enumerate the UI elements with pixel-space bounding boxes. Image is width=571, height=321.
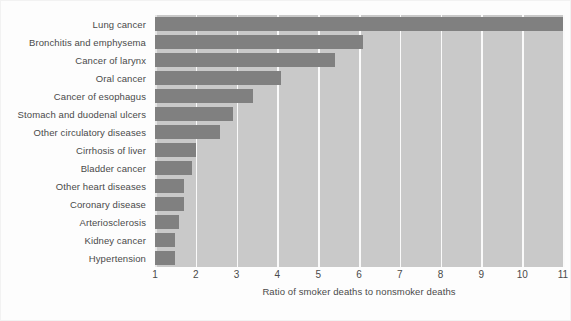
bar-row [155,249,563,267]
category-label: Stomach and duodenal ulcers [0,105,152,123]
x-axis-ticks: 1234567891011 [155,267,563,287]
bar-row [155,213,563,231]
bar [155,143,196,157]
bar-row [155,159,563,177]
x-tick-label: 7 [397,269,403,280]
bar [155,71,281,85]
bar [155,215,179,229]
bar [155,251,175,265]
category-label: Arteriosclerosis [0,213,152,231]
x-tick-label: 10 [517,269,528,280]
bar [155,53,335,67]
bar-row [155,123,563,141]
bar [155,161,192,175]
bar-row [155,69,563,87]
category-label: Cancer of larynx [0,51,152,69]
bar-row [155,195,563,213]
category-label: Other heart diseases [0,177,152,195]
category-label: Cancer of esophagus [0,87,152,105]
bar-series [155,15,563,267]
category-label: Hypertension [0,249,152,267]
plot-area [155,15,563,267]
category-label: Lung cancer [0,15,152,33]
bar-row [155,141,563,159]
category-label: Kidney cancer [0,231,152,249]
bar [155,89,253,103]
x-tick-label: 3 [234,269,240,280]
bar [155,35,363,49]
bar [155,107,233,121]
bar-row [155,231,563,249]
bar [155,17,563,31]
bar [155,233,175,247]
bar-row [155,33,563,51]
category-label: Other circulatory diseases [0,123,152,141]
bar [155,125,220,139]
category-label: Coronary disease [0,195,152,213]
category-label: Oral cancer [0,69,152,87]
x-tick-label: 2 [193,269,199,280]
bar-row [155,15,563,33]
gridline [563,15,565,267]
category-label: Bronchitis and emphysema [0,33,152,51]
bar-chart-figure: Lung cancerBronchitis and emphysemaCance… [0,0,571,321]
bar [155,179,184,193]
bar-row [155,51,563,69]
bar-row [155,105,563,123]
bar [155,197,184,211]
x-tick-label: 8 [438,269,444,280]
x-tick-label: 11 [558,269,568,280]
x-tick-label: 6 [356,269,362,280]
bar-row [155,87,563,105]
x-tick-label: 9 [479,269,485,280]
category-label: Cirrhosis of liver [0,141,152,159]
x-axis-title: Ratio of smoker deaths to nonsmoker deat… [155,286,563,297]
x-tick-label: 4 [275,269,281,280]
category-label: Bladder cancer [0,159,152,177]
category-label-column: Lung cancerBronchitis and emphysemaCance… [0,15,152,267]
x-tick-label: 1 [152,269,158,280]
bar-row [155,177,563,195]
x-tick-label: 5 [315,269,321,280]
